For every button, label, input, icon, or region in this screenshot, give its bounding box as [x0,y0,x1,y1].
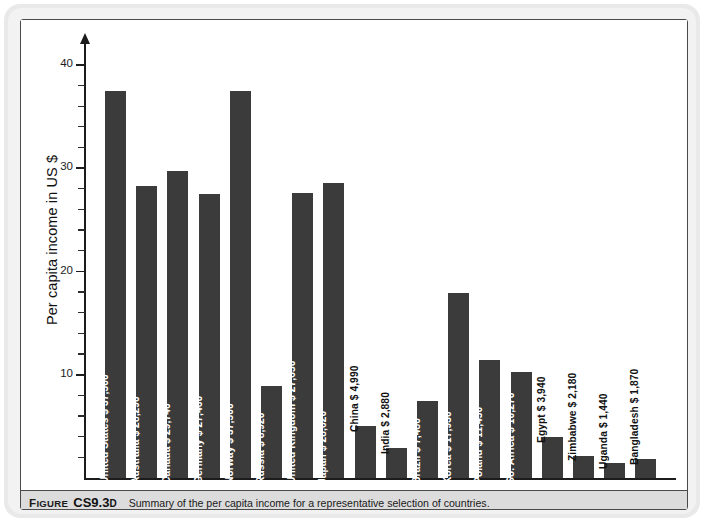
y-tick-label: 10 [39,367,73,379]
chart-plot-area: 10203040 Per capita income in US $ Unite… [21,20,687,490]
y-tick-major [76,64,86,66]
chart-bar [511,372,532,478]
caption-text: Summary of the per capita income for a r… [129,497,490,509]
y-tick-minor [78,333,85,334]
chart-bar [230,91,251,478]
bar-label: China $ 4,990 [349,366,360,432]
y-tick-minor [78,147,85,148]
chart-bar [167,171,188,478]
bar-label: India $ 2,880 [380,392,391,454]
caption-number-main: CS9.3 [73,495,109,510]
figure-caption-band: FIGURECS9.3DSummary of the per capita in… [21,490,687,509]
chart-bar [386,448,407,478]
y-tick-major [76,167,86,169]
chart-bar [323,183,344,479]
bar-label: Zimbabwe $ 2,180 [567,373,578,461]
chart-bar [199,194,220,478]
chart-bar [479,360,500,478]
y-tick-minor [78,457,85,458]
chart-bar [604,463,625,478]
bar-label: Uganda $ 1,440 [598,394,609,470]
x-axis-line [84,478,676,480]
caption-label: FIGURE [29,498,68,509]
chart-bar [573,456,594,479]
y-tick-minor [78,250,85,251]
chart-bar [448,293,469,478]
y-tick-minor [78,229,85,230]
caption-number-suffix: D [109,498,116,509]
y-tick-minor [78,312,85,313]
y-axis-title: Per capita income in US $ [44,125,60,355]
y-tick-label: 40 [39,57,73,69]
y-tick-minor [78,291,85,292]
chart-bar [355,426,376,478]
chart-bar [417,401,438,478]
bar-label: Egypt $ 3,940 [536,377,547,443]
chart-bar [261,386,282,478]
bar-label: Bangladesh $ 1,870 [629,368,640,464]
figure-caption: FIGURECS9.3DSummary of the per capita in… [29,493,490,511]
chart-bar [292,193,313,478]
y-tick-minor [78,415,85,416]
y-tick-minor [78,85,85,86]
figure-frame: 10203040 Per capita income in US $ Unite… [20,19,688,510]
y-tick-minor [78,106,85,107]
chart-bar [105,91,126,478]
chart-bar [542,437,563,478]
figure-page: 10203040 Per capita income in US $ Unite… [0,0,710,526]
caption-number: CS9.3D [73,495,116,510]
y-tick-minor [78,126,85,127]
y-tick-minor [78,188,85,189]
y-tick-minor [78,209,85,210]
y-tick-minor [78,436,85,437]
chart-bar [136,186,157,478]
y-tick-minor [78,395,85,396]
y-tick-major [76,374,86,376]
y-tick-minor [78,353,85,354]
chart-bar [635,459,656,478]
caption-label-rest: IGURE [36,498,68,509]
y-tick-major [76,271,86,273]
